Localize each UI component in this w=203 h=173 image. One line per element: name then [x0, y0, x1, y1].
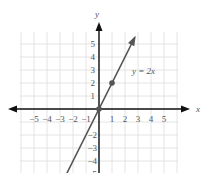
coordinate-plane: −5−4−3−2−11234512345−2−3−4−5 x y y = 2x — [0, 0, 203, 173]
svg-text:−1: −1 — [81, 114, 91, 124]
svg-text:−2: −2 — [87, 130, 97, 140]
svg-text:−5: −5 — [87, 169, 97, 173]
svg-text:5: 5 — [162, 114, 167, 124]
data-point — [96, 106, 102, 112]
svg-text:−4: −4 — [42, 114, 52, 124]
tick-labels: −5−4−3−2−11234512345−2−3−4−5 — [29, 39, 167, 173]
svg-text:−4: −4 — [87, 156, 97, 166]
svg-text:5: 5 — [91, 39, 96, 49]
svg-text:4: 4 — [149, 114, 154, 124]
svg-text:−3: −3 — [87, 143, 97, 153]
svg-text:−3: −3 — [55, 114, 65, 124]
svg-text:2: 2 — [91, 78, 96, 88]
y-axis-up-arrow-icon — [96, 22, 103, 31]
svg-text:1: 1 — [91, 91, 96, 101]
axes — [8, 22, 190, 173]
y-axis-label: y — [94, 9, 99, 19]
x-axis-left-arrow-icon — [8, 106, 17, 113]
line-arrow-icon — [128, 36, 136, 47]
data-point — [109, 80, 115, 86]
svg-text:−5: −5 — [29, 114, 39, 124]
svg-text:3: 3 — [91, 65, 96, 75]
svg-text:2: 2 — [123, 114, 128, 124]
svg-text:4: 4 — [91, 52, 96, 62]
svg-text:3: 3 — [136, 114, 141, 124]
equation-label: y = 2x — [131, 66, 155, 76]
svg-text:1: 1 — [110, 114, 115, 124]
x-axis-label: x — [195, 104, 200, 114]
x-axis-right-arrow-icon — [181, 106, 190, 113]
svg-text:−2: −2 — [68, 114, 78, 124]
